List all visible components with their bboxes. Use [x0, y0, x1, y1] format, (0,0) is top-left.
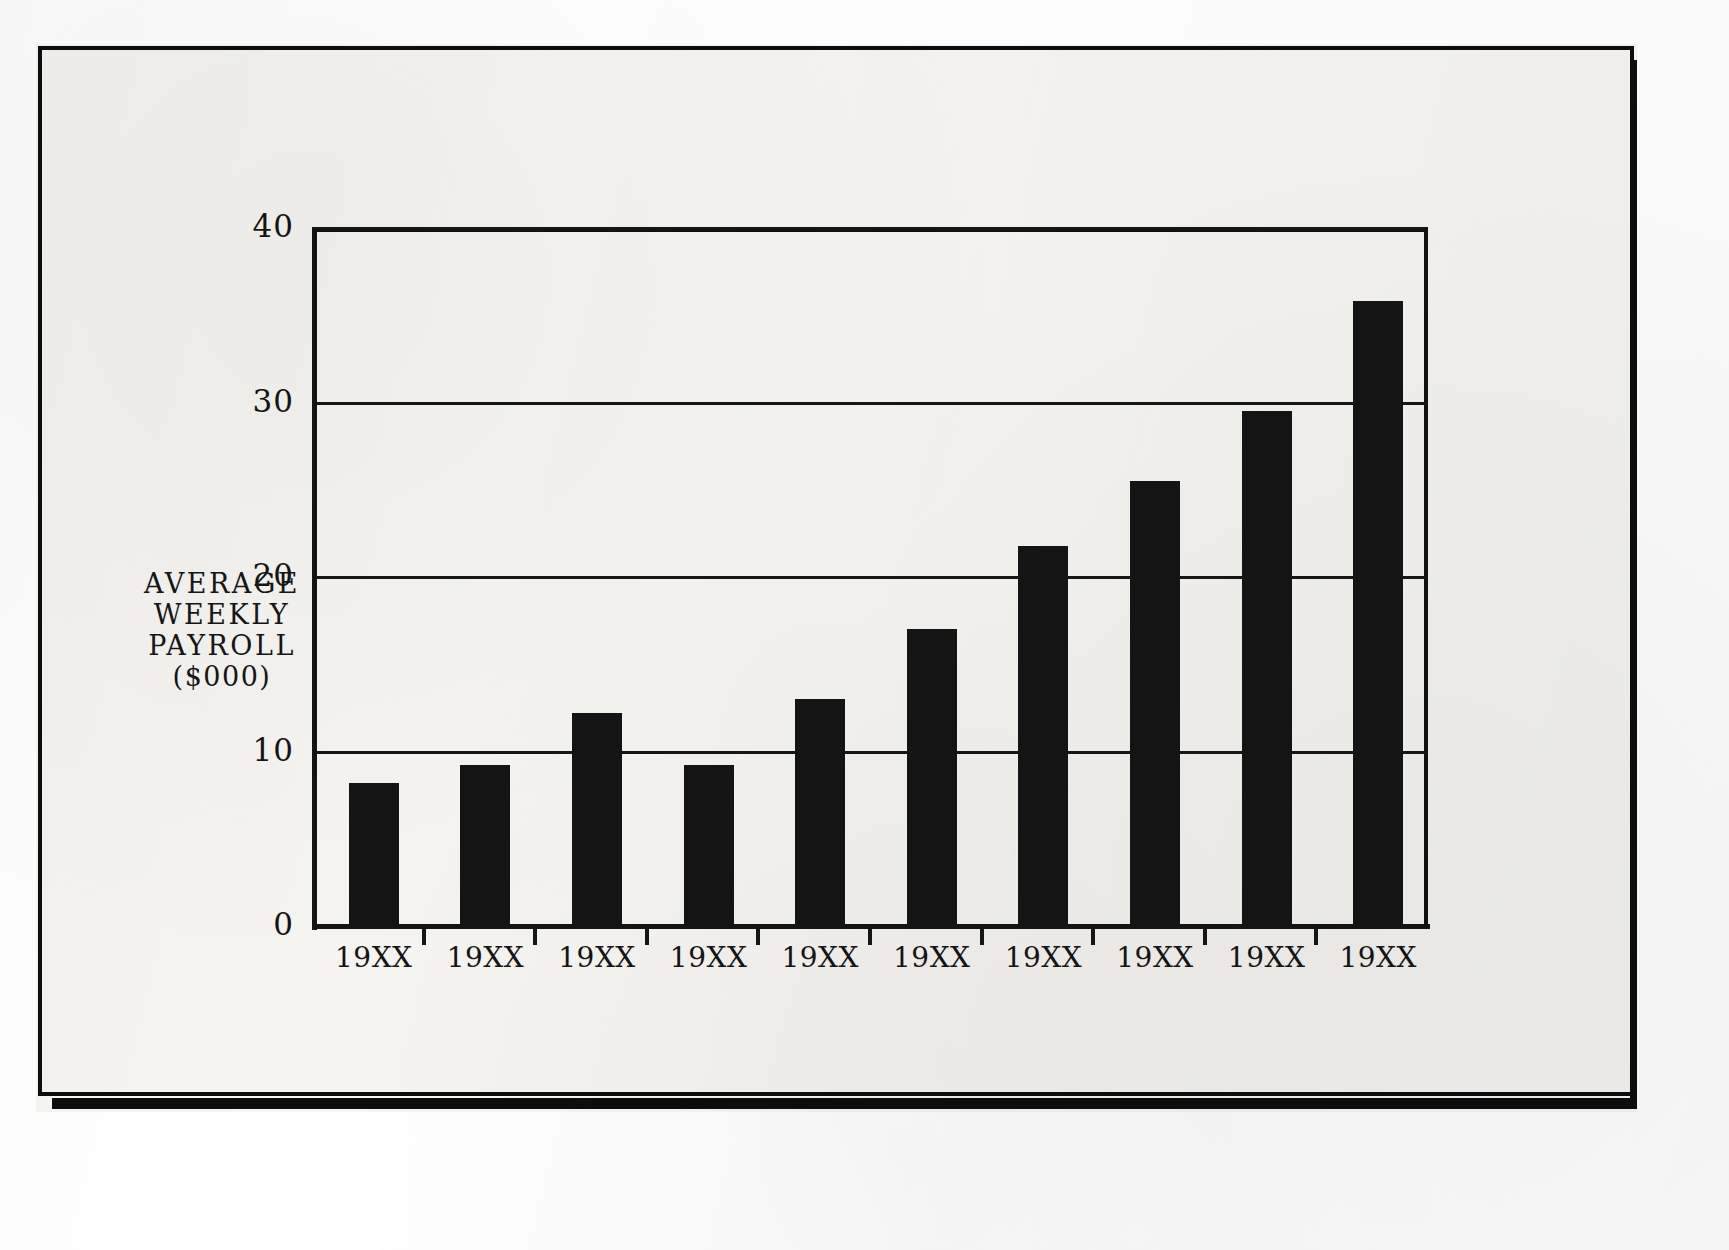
y-axis-title: AVERAGE WEEKLY PAYROLL ($000): [112, 568, 332, 692]
bar: [795, 699, 845, 926]
y-axis-title-line-2: WEEKLY: [112, 599, 332, 630]
bar: [684, 765, 734, 926]
y-axis-title-line-1: AVERAGE: [112, 568, 332, 599]
gridline-30: [312, 402, 1428, 405]
x-tick-label: 19XX: [542, 941, 652, 974]
chart-page: 010203040 19XX19XX19XX19XX19XX19XX19XX19…: [0, 0, 1729, 1250]
x-tick-label: 19XX: [988, 941, 1098, 974]
x-tick-label: 19XX: [1323, 941, 1433, 974]
x-tick-label: 19XX: [654, 941, 764, 974]
y-tick-label-30: 30: [204, 383, 294, 419]
bar: [349, 783, 399, 926]
y-tick-label-0: 0: [204, 906, 294, 942]
y-axis-title-line-3: PAYROLL: [112, 630, 332, 661]
bar: [907, 629, 957, 926]
x-tick-label: 19XX: [1212, 941, 1322, 974]
bar: [1353, 301, 1403, 926]
margin-top: [0, 0, 1729, 44]
margin-right: [1637, 0, 1729, 1250]
margin-left: [0, 0, 36, 1250]
margin-bottom: [0, 1112, 1729, 1250]
x-tick-label: 19XX: [319, 941, 429, 974]
frame-shadow-bottom: [52, 1098, 1640, 1109]
x-tick-label: 19XX: [877, 941, 987, 974]
bar: [1130, 481, 1180, 926]
bar: [1242, 411, 1292, 926]
bar: [572, 713, 622, 926]
x-tick-label: 19XX: [430, 941, 540, 974]
bar: [1018, 546, 1068, 926]
y-axis-title-line-4: ($000): [112, 661, 332, 692]
gridline-40: [312, 227, 1428, 230]
x-tick-label: 19XX: [765, 941, 875, 974]
y-tick-label-40: 40: [204, 208, 294, 244]
y-tick-label-10: 10: [204, 732, 294, 768]
bar: [460, 765, 510, 926]
x-tick-label: 19XX: [1100, 941, 1210, 974]
